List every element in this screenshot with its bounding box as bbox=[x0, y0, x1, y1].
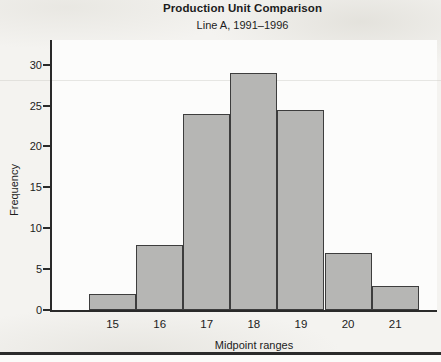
y-tick bbox=[43, 227, 50, 229]
y-tick-label: 5 bbox=[12, 262, 42, 276]
figure: Production Unit Comparison Line A, 1991–… bbox=[0, 0, 441, 362]
histogram-bar bbox=[183, 114, 230, 310]
y-tick-label: 30 bbox=[12, 58, 42, 72]
y-tick bbox=[43, 268, 50, 270]
x-tick-label: 15 bbox=[89, 317, 136, 331]
x-tick-label: 19 bbox=[277, 317, 324, 331]
x-axis-line bbox=[50, 310, 437, 312]
histogram-bar bbox=[372, 286, 419, 311]
histogram-bar bbox=[325, 253, 372, 310]
y-tick-label: 25 bbox=[12, 99, 42, 113]
y-tick-label: 20 bbox=[12, 139, 42, 153]
y-tick bbox=[43, 64, 50, 66]
y-tick-label: 15 bbox=[12, 180, 42, 194]
y-tick-label: 10 bbox=[12, 221, 42, 235]
x-axis-label: Midpoint ranges bbox=[154, 339, 354, 351]
histogram-bar bbox=[136, 245, 183, 310]
scan-artifact-line bbox=[0, 80, 441, 81]
x-tick-label: 21 bbox=[372, 317, 419, 331]
histogram-bar bbox=[89, 294, 136, 310]
y-tick-label: 0 bbox=[12, 303, 42, 317]
x-tick-label: 20 bbox=[325, 317, 372, 331]
histogram-bar bbox=[277, 110, 324, 310]
x-tick-label: 17 bbox=[183, 317, 230, 331]
chart-title: Production Unit Comparison bbox=[50, 2, 435, 14]
y-tick bbox=[43, 309, 50, 311]
x-tick-label: 16 bbox=[136, 317, 183, 331]
y-tick bbox=[43, 145, 50, 147]
y-tick bbox=[43, 186, 50, 188]
bottom-strip bbox=[0, 355, 441, 362]
y-axis-line bbox=[50, 40, 52, 312]
x-tick-label: 18 bbox=[230, 317, 277, 331]
y-tick bbox=[43, 105, 50, 107]
chart-subtitle: Line A, 1991–1996 bbox=[50, 19, 435, 31]
histogram-bar bbox=[230, 73, 277, 310]
